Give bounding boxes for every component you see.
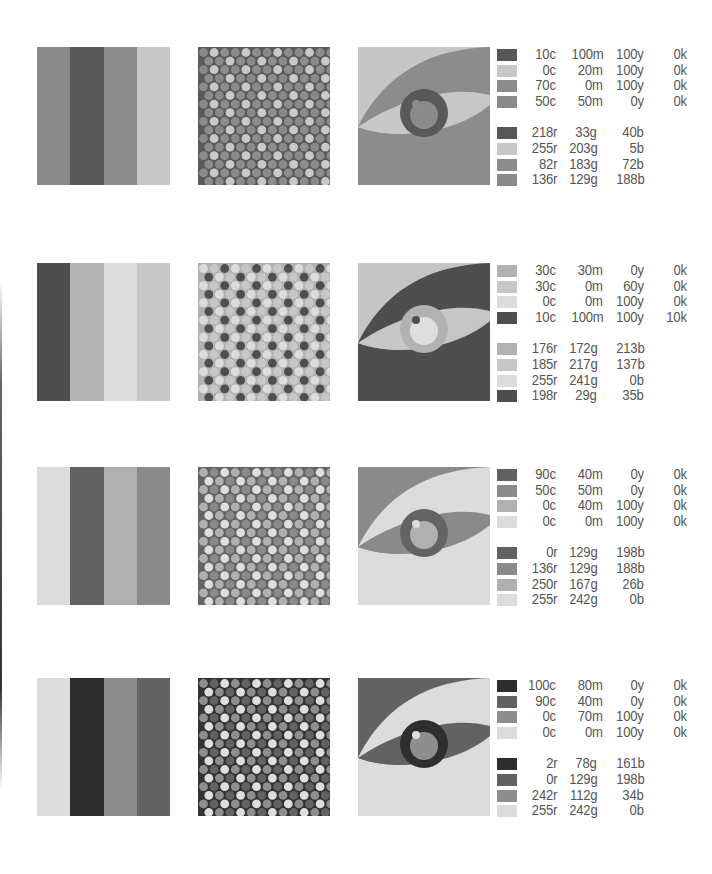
color-swatch: [497, 469, 517, 481]
magenta-value: 0m: [585, 725, 603, 741]
black-value: 0k: [674, 678, 687, 694]
cyan-value: 0c: [543, 294, 556, 310]
color-swatch: [497, 143, 517, 155]
color-stripe: [104, 47, 137, 185]
color-swatch: [497, 159, 517, 171]
color-swatch: [497, 281, 517, 293]
blue-value: 26b: [623, 577, 644, 593]
yellow-value: 100y: [616, 514, 644, 530]
palette-row-2: 30c 30m 0y 0k 30c 0m 60y 0k 0c 0m 100y 0…: [0, 263, 712, 403]
color-stripe: [37, 678, 70, 816]
color-stripe: [137, 47, 170, 185]
blue-value: 137b: [616, 357, 644, 373]
yellow-value: 60y: [623, 279, 644, 295]
color-stripe: [137, 467, 170, 605]
cyan-value: 0c: [543, 514, 556, 530]
color-swatch: [497, 563, 517, 575]
black-value: 0k: [674, 94, 687, 110]
black-value: 0k: [674, 279, 687, 295]
yellow-value: 0y: [631, 483, 644, 499]
yellow-value: 100y: [616, 63, 644, 79]
palette-row-1: 10c 100m 100y 0k 0c 20m 100y 0k 70c 0m 1…: [0, 47, 712, 187]
blue-value: 188b: [616, 561, 644, 577]
color-swatch: [497, 680, 517, 692]
color-stripe: [37, 467, 70, 605]
red-value: 255r: [532, 141, 557, 157]
yellow-value: 0y: [631, 94, 644, 110]
cyan-value: 0c: [543, 725, 556, 741]
palette-row-3: 90c 40m 0y 0k 50c 50m 0y 0k 0c 40m 100y …: [0, 467, 712, 607]
black-value: 0k: [674, 294, 687, 310]
color-stripe: [37, 263, 70, 401]
color-legend: 100c 80m 0y 0k 90c 40m 0y 0k 0c 70m 100y…: [497, 679, 697, 820]
dot-pattern-panel: [198, 263, 330, 401]
magenta-value: 0m: [585, 279, 603, 295]
rgb-legend-row: 136r 129g 188b: [497, 173, 697, 189]
magenta-value: 20m: [578, 63, 603, 79]
color-swatch: [497, 594, 517, 606]
red-value: 250r: [532, 577, 557, 593]
magenta-value: 40m: [578, 694, 603, 710]
cmyk-legend-row: 50c 50m 0y 0k: [497, 95, 697, 111]
black-value: 0k: [674, 263, 687, 279]
red-value: 218r: [532, 125, 557, 141]
green-value: 129g: [569, 561, 597, 577]
blue-value: 161b: [616, 756, 644, 772]
yellow-value: 100y: [616, 709, 644, 725]
magenta-value: 50m: [578, 483, 603, 499]
color-swatch: [497, 390, 517, 402]
cyan-value: 30c: [535, 279, 556, 295]
cyan-value: 90c: [535, 694, 556, 710]
black-value: 0k: [674, 63, 687, 79]
magenta-value: 40m: [578, 498, 603, 514]
color-swatch: [497, 80, 517, 92]
cyan-value: 0c: [543, 63, 556, 79]
color-swatch: [497, 174, 517, 186]
color-swatch: [497, 758, 517, 770]
yellow-value: 100y: [616, 498, 644, 514]
red-value: 255r: [532, 803, 557, 819]
magenta-value: 30m: [578, 263, 603, 279]
blue-value: 34b: [623, 788, 644, 804]
black-value: 0k: [674, 725, 687, 741]
rgb-legend-row: 198r 29g 35b: [497, 389, 697, 405]
cyan-value: 100c: [528, 678, 556, 694]
red-value: 136r: [532, 561, 557, 577]
color-swatch: [497, 727, 517, 739]
rgb-legend-row: 255r 241g 0b: [497, 374, 697, 390]
green-value: 78g: [576, 756, 597, 772]
blue-value: 72b: [623, 157, 644, 173]
stripe-swatch-panel: [37, 467, 170, 605]
dot-pattern-panel: [198, 467, 330, 605]
cyan-value: 50c: [535, 483, 556, 499]
green-value: 172g: [569, 341, 597, 357]
magenta-value: 0m: [585, 78, 603, 94]
color-swatch: [497, 312, 517, 324]
yellow-value: 0y: [631, 694, 644, 710]
red-value: 0r: [546, 545, 557, 561]
color-swatch: [497, 375, 517, 387]
color-swatch: [497, 547, 517, 559]
blue-value: 213b: [616, 341, 644, 357]
yellow-value: 100y: [616, 294, 644, 310]
blue-value: 5b: [630, 141, 644, 157]
color-swatch: [497, 49, 517, 61]
blue-value: 0b: [630, 373, 644, 389]
red-value: 185r: [532, 357, 557, 373]
black-value: 0k: [674, 483, 687, 499]
green-value: 241g: [569, 373, 597, 389]
cmyk-legend-row: 0c 0m 100y 0k: [497, 726, 697, 742]
color-swatch: [497, 696, 517, 708]
color-stripe: [70, 467, 103, 605]
color-swatch: [497, 805, 517, 817]
color-stripe: [70, 263, 103, 401]
yellow-value: 0y: [631, 263, 644, 279]
black-value: 10k: [666, 310, 687, 326]
color-swatch: [497, 485, 517, 497]
red-value: 255r: [532, 373, 557, 389]
green-value: 242g: [569, 592, 597, 608]
cyan-value: 10c: [535, 310, 556, 326]
green-value: 242g: [569, 803, 597, 819]
blue-value: 0b: [630, 803, 644, 819]
yellow-value: 0y: [631, 678, 644, 694]
